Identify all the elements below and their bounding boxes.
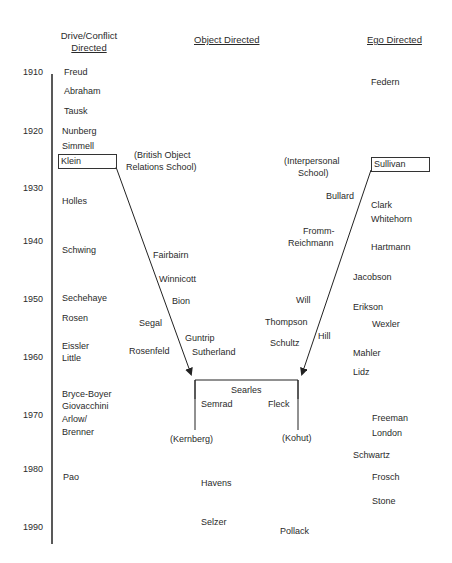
year-label: 1960 xyxy=(23,352,43,363)
drive-name: Schwing xyxy=(62,245,96,256)
later-name: Pollack xyxy=(280,526,309,537)
ego-name: London xyxy=(372,428,402,439)
ego-name: Erikson xyxy=(353,302,383,313)
year-label: 1930 xyxy=(23,183,43,194)
drive-name: Giovacchini xyxy=(62,401,109,412)
object-name: Bion xyxy=(172,296,190,307)
drive-name: Abraham xyxy=(64,86,101,97)
convergence-name: (Kohut) xyxy=(282,433,312,444)
drive-name: Pao xyxy=(63,472,79,483)
header-ego-directed: Ego Directed xyxy=(367,34,422,46)
object-name: Winnicott xyxy=(159,274,196,285)
convergence-name: Semrad xyxy=(201,399,233,410)
object-name: Guntrip xyxy=(185,333,215,344)
interpersonal-name: Hill xyxy=(318,331,331,342)
interpersonal-name: Schultz xyxy=(270,338,300,349)
ego-name: Jacobson xyxy=(353,272,392,283)
year-label: 1980 xyxy=(23,464,43,475)
interpersonal-name: Will xyxy=(296,295,311,306)
ego-name: Whitehorn xyxy=(371,214,412,225)
ego-name: Federn xyxy=(371,77,400,88)
interpersonal-school-label: School) xyxy=(298,168,329,179)
ego-name: Frosch xyxy=(372,472,400,483)
drive-name: Little xyxy=(62,353,81,364)
british-school-label: (British Object xyxy=(134,150,191,161)
year-label: 1950 xyxy=(23,294,43,305)
drive-name: Nunberg xyxy=(62,126,97,137)
ego-name-sullivan: Sullivan xyxy=(374,159,406,170)
drive-name: Sechehaye xyxy=(62,293,107,304)
convergence-name: Searles xyxy=(231,385,262,396)
object-name: Fairbairn xyxy=(153,250,189,261)
interpersonal-name: Thompson xyxy=(265,317,308,328)
drive-name: Holles xyxy=(62,196,87,207)
drive-name: Arlow/ xyxy=(62,414,87,425)
convergence-name: (Kernberg) xyxy=(170,434,213,445)
interpersonal-name: Bullard xyxy=(326,191,354,202)
object-name: Sutherland xyxy=(192,347,236,358)
object-name: Rosenfeld xyxy=(129,346,170,357)
drive-name: Freud xyxy=(64,67,88,78)
ego-name: Mahler xyxy=(353,348,381,359)
later-name: Selzer xyxy=(201,517,227,528)
interpersonal-name: Fromm- xyxy=(303,226,335,237)
ego-name: Schwartz xyxy=(353,450,390,461)
interpersonal-school-label: (Interpersonal xyxy=(284,156,340,167)
drive-name: Eissler xyxy=(62,341,89,352)
year-label: 1910 xyxy=(23,67,43,78)
convergence-name: Fleck xyxy=(268,399,290,410)
interpersonal-name: Reichmann xyxy=(288,238,334,249)
drive-name: Brenner xyxy=(62,427,94,438)
drive-name: Tausk xyxy=(64,106,88,117)
header-drive-conflict: Drive/Conflict Directed xyxy=(57,30,121,54)
object-name: Segal xyxy=(139,318,162,329)
ego-name: Wexler xyxy=(372,319,400,330)
year-label: 1920 xyxy=(23,126,43,137)
drive-name: Simmell xyxy=(62,141,94,152)
ego-name: Freeman xyxy=(372,413,408,424)
later-name: Havens xyxy=(201,478,232,489)
ego-name: Clark xyxy=(371,200,392,211)
year-label: 1940 xyxy=(23,236,43,247)
year-label: 1990 xyxy=(23,522,43,533)
year-label: 1970 xyxy=(23,410,43,421)
header-object-directed: Object Directed xyxy=(194,34,259,46)
british-arrow xyxy=(116,167,191,374)
drive-name-klein: Klein xyxy=(61,156,81,167)
drive-name: Rosen xyxy=(62,313,88,324)
ego-name: Hartmann xyxy=(371,242,411,253)
british-school-label: Relations School) xyxy=(126,162,197,173)
ego-name: Lidz xyxy=(353,367,370,378)
ego-name: Stone xyxy=(372,496,396,507)
drive-name: Bryce-Boyer xyxy=(62,389,112,400)
